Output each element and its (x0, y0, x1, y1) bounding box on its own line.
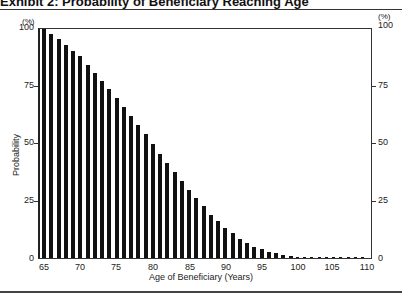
xtick-100: 100 (290, 262, 305, 272)
bar-age-103 (318, 257, 321, 258)
bar-age-102 (310, 257, 313, 258)
bar-age-76 (122, 107, 126, 258)
bar-age-94 (252, 247, 256, 258)
bar-age-67 (57, 39, 61, 258)
tickmark (34, 86, 38, 87)
bar-age-77 (129, 116, 133, 258)
y-axis-label: Probability (11, 125, 21, 185)
ytick-left-75: 75 (24, 80, 34, 90)
chart-title: Exhibit 2: Probability of Beneficiary Re… (0, 0, 309, 9)
bar-age-80 (151, 144, 155, 259)
bar-age-66 (49, 34, 53, 258)
xtick-65: 65 (39, 262, 49, 272)
ytick-right-0: 0 (378, 253, 383, 263)
bar-age-89 (216, 221, 220, 258)
bottom-rule (0, 291, 402, 293)
bar-age-92 (238, 239, 242, 258)
top-rule (0, 9, 402, 10)
ytick-right-25: 25 (378, 195, 388, 205)
bar-age-93 (245, 243, 249, 258)
bar-age-100 (296, 257, 299, 258)
xtick-110: 110 (360, 262, 374, 272)
bar-age-68 (64, 45, 68, 258)
bar-age-74 (107, 89, 111, 258)
bar-age-88 (209, 215, 213, 259)
bar-age-79 (144, 134, 148, 258)
bar-age-108 (354, 257, 357, 258)
tickmark (372, 201, 376, 202)
bar-age-72 (93, 73, 97, 258)
xtick-70: 70 (75, 262, 85, 272)
ytick-left-0: 0 (29, 253, 34, 263)
tickmark (34, 201, 38, 202)
ytick-left-100: 100 (19, 22, 34, 32)
bar-age-73 (100, 81, 104, 258)
ytick-right-100: 100 (378, 20, 393, 30)
bar-age-98 (281, 255, 285, 258)
bar-age-86 (194, 198, 198, 258)
plot-area (38, 28, 372, 259)
tickmark (372, 143, 376, 144)
bar-age-96 (267, 252, 271, 258)
bar-age-87 (202, 206, 206, 258)
bar-age-95 (260, 249, 264, 258)
xtick-75: 75 (111, 262, 121, 272)
xtick-105: 105 (324, 262, 339, 272)
bar-age-81 (158, 154, 162, 258)
bar-age-70 (78, 56, 82, 258)
ytick-right-75: 75 (378, 80, 388, 90)
tickmark (372, 86, 376, 87)
xtick-80: 80 (148, 262, 158, 272)
bar-age-85 (187, 190, 191, 258)
bar-age-101 (303, 257, 306, 258)
bar-age-91 (231, 233, 235, 258)
xtick-85: 85 (185, 262, 195, 272)
bar-age-97 (274, 253, 278, 258)
ytick-left-25: 25 (24, 195, 34, 205)
bar-age-78 (136, 125, 140, 258)
tickmark (34, 143, 38, 144)
bar-age-90 (223, 228, 227, 258)
bar-age-105 (332, 257, 335, 258)
x-axis-label: Age of Beneficiary (Years) (0, 272, 402, 282)
bar-age-69 (71, 51, 75, 258)
bar-age-75 (115, 98, 119, 258)
bar-age-82 (165, 163, 169, 258)
bar-age-71 (86, 65, 90, 259)
bar-age-65 (42, 29, 46, 258)
ytick-left-50: 50 (24, 137, 34, 147)
bar-age-109 (361, 257, 364, 258)
bar-age-84 (180, 181, 184, 258)
bar-age-99 (289, 256, 293, 258)
bar-age-106 (339, 257, 342, 258)
bar-age-107 (347, 257, 350, 258)
ytick-right-50: 50 (378, 137, 388, 147)
bar-age-104 (325, 257, 328, 258)
bar-age-83 (173, 172, 177, 258)
xtick-95: 95 (257, 262, 267, 272)
xtick-90: 90 (221, 262, 231, 272)
